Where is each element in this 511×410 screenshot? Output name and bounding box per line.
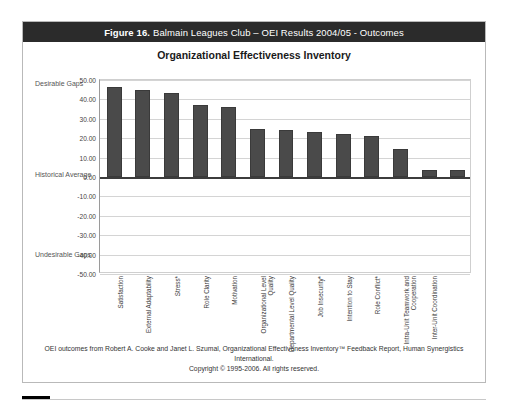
- page-bottom-rule: [22, 399, 486, 400]
- figure-caption-bar: Figure 16. Balmain Leagues Club – OEI Re…: [23, 22, 485, 42]
- bar-slot: [307, 80, 322, 272]
- chart-bar: [450, 170, 465, 177]
- x-axis-tick-label: Stress*: [174, 276, 181, 296]
- bar-slot: [336, 80, 351, 272]
- y-axis-tick-label: -10.00: [60, 193, 96, 200]
- chart-plot-area: 50.0040.0030.0020.0010.000.00-10.00-20.0…: [99, 79, 471, 273]
- x-axis-tick-label-line: Role Clarity: [203, 276, 210, 309]
- chart-bar: [221, 107, 236, 177]
- x-axis-tick-label-line: Intra-Unit Teamwork and: [403, 276, 410, 344]
- x-axis-tick-label-line: Job Insecurity*: [317, 276, 324, 317]
- x-axis-tick-label: Intra-Unit Teamwork andCooperation: [403, 276, 417, 344]
- bar-slot: [422, 80, 437, 272]
- x-axis-tick-label: Role Conflict*: [374, 276, 381, 314]
- y-axis-tick-label: 50.00: [60, 77, 96, 84]
- y-axis-tick-label: 10.00: [60, 154, 96, 161]
- x-axis-tick-label: Intention to Stay: [346, 276, 353, 322]
- figure-footer: OEI outcomes from Robert A. Cooke and Ja…: [31, 344, 477, 374]
- x-axis-tick-label-line: Role Conflict*: [374, 276, 381, 314]
- x-axis-tick-label: Motivation: [231, 276, 238, 305]
- chart-bar: [164, 93, 179, 177]
- bar-slot: [164, 80, 179, 272]
- chart-bar: [364, 136, 379, 177]
- y-axis-tick-label: -20.00: [60, 212, 96, 219]
- bar-slot: [364, 80, 379, 272]
- bar-slot: [107, 80, 122, 272]
- x-axis-tick-label: External Adaptability: [145, 276, 152, 333]
- y-axis-tick-label: 20.00: [60, 135, 96, 142]
- chart-bar: [279, 130, 294, 177]
- chart-bar: [336, 134, 351, 177]
- chart-bar: [307, 132, 322, 177]
- y-axis-tick-label: 40.00: [60, 96, 96, 103]
- x-axis-tick-label-line: Quality: [267, 276, 274, 333]
- x-axis-tick-label-line: Inter-Unit Coordination: [431, 276, 438, 339]
- x-axis-tick-label-line: Departmental Level Quality: [288, 276, 295, 352]
- x-axis-tick-label-line: Intention to Stay: [346, 276, 353, 322]
- figure-frame: Figure 16. Balmain Leagues Club – OEI Re…: [22, 21, 486, 383]
- x-axis-tick-label-line: Organizational Level: [260, 276, 267, 333]
- bar-slot: [393, 80, 408, 272]
- figure-caption-text: Balmain Leagues Club – OEI Results 2004/…: [153, 27, 404, 38]
- x-axis-tick-label: Departmental Level Quality: [288, 276, 295, 352]
- y-axis-tick-label: -30.00: [60, 232, 96, 239]
- bar-slot: [135, 80, 150, 272]
- x-axis-tick-label: Role Clarity: [203, 276, 210, 309]
- chart-title: Organizational Effectiveness Inventory: [23, 49, 485, 61]
- x-axis-tick-label: Satisfaction: [117, 276, 124, 309]
- chart-bar: [250, 129, 265, 178]
- x-axis-tick-label: Inter-Unit Coordination: [431, 276, 438, 339]
- y-axis-tick-label: -50.00: [60, 271, 96, 278]
- chart-bar: [422, 170, 437, 177]
- x-axis-tick-label-line: External Adaptability: [145, 276, 152, 333]
- footer-line-2: Copyright © 1995-2006. All rights reserv…: [31, 364, 477, 374]
- bar-slot: [250, 80, 265, 272]
- chart-bar: [107, 87, 122, 177]
- bar-slot: [193, 80, 208, 272]
- chart-bar: [193, 105, 208, 177]
- figure-number: Figure 16.: [104, 27, 150, 38]
- zero-baseline: [100, 177, 470, 179]
- x-axis-tick-label-line: Cooperation: [410, 276, 417, 344]
- y-axis-tick-label: 30.00: [60, 115, 96, 122]
- x-axis-tick-label-line: Stress*: [174, 276, 181, 296]
- bar-slot: [450, 80, 465, 272]
- gridline: [100, 274, 470, 275]
- footer-line-1: OEI outcomes from Robert A. Cooke and Ja…: [31, 344, 477, 364]
- bar-slot: [279, 80, 294, 272]
- x-axis-tick-label: Job Insecurity*: [317, 276, 324, 317]
- bar-slot: [221, 80, 236, 272]
- chart-bars: [100, 80, 470, 272]
- y-axis-tick-label: -40.00: [60, 251, 96, 258]
- x-axis-tick-label: Organizational LevelQuality: [260, 276, 274, 333]
- x-axis-tick-label-line: Motivation: [231, 276, 238, 305]
- y-axis-tick-label: 0.00: [60, 174, 96, 181]
- chart-bar: [393, 149, 408, 177]
- x-axis-tick-label-line: Satisfaction: [117, 276, 124, 309]
- chart-bar: [135, 90, 150, 177]
